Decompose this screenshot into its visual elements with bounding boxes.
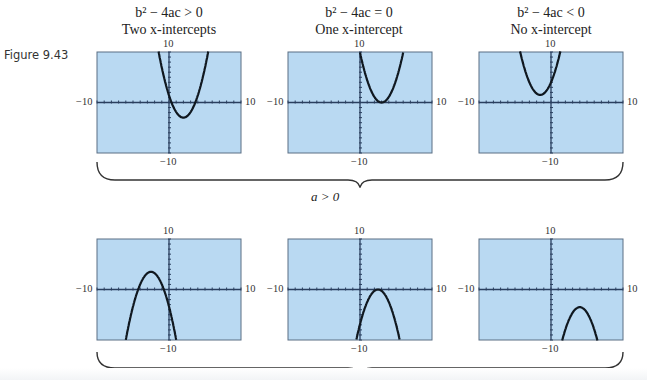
- condition-text: b² − 4ac = 0: [259, 4, 459, 21]
- graph-top-2: 10−10−1010: [288, 52, 432, 153]
- caption-col-3: b² − 4ac < 0 No x-intercept: [451, 4, 647, 38]
- description-text: Two x-intercepts: [69, 21, 269, 38]
- ymax-label: 10: [545, 225, 556, 236]
- caption-col-2: b² − 4ac = 0 One x-intercept: [259, 4, 459, 38]
- condition-text: b² − 4ac > 0: [69, 4, 269, 21]
- xmax-label: 10: [436, 96, 447, 107]
- ymax-label: 10: [354, 225, 365, 236]
- ymax-label: 10: [163, 38, 174, 49]
- ymax-label: 10: [545, 38, 556, 49]
- xmax-label: 10: [627, 283, 638, 294]
- graph-bottom-1: 10−10−1010: [97, 239, 241, 340]
- description-text: No x-intercept: [451, 21, 647, 38]
- graph-bottom-2: 10−10−1010: [288, 239, 432, 340]
- graph-top-1: 10−10−1010: [97, 52, 241, 153]
- graph-screen: [288, 239, 432, 340]
- xmin-label: −10: [267, 96, 283, 107]
- ymax-label: 10: [354, 38, 365, 49]
- graph-screen: [479, 239, 623, 340]
- figure-label: Figure 9.43: [4, 48, 68, 62]
- page-bleed: [0, 368, 647, 380]
- graph-screen: [97, 52, 241, 153]
- graph-bottom-3: 10−10−1010: [479, 239, 623, 340]
- xmax-label: 10: [245, 96, 256, 107]
- graph-screen: [97, 239, 241, 340]
- xmax-label: 10: [436, 283, 447, 294]
- xmin-label: −10: [76, 96, 92, 107]
- xmin-label: −10: [458, 96, 474, 107]
- xmax-label: 10: [627, 96, 638, 107]
- upper-condition-label: a > 0: [311, 189, 339, 205]
- graph-top-3: 10−10−1010: [479, 52, 623, 153]
- upper-brace: [95, 160, 625, 188]
- condition-text: b² − 4ac < 0: [451, 4, 647, 21]
- xmin-label: −10: [458, 283, 474, 294]
- ymax-label: 10: [163, 225, 174, 236]
- graph-screen: [288, 52, 432, 153]
- xmin-label: −10: [76, 283, 92, 294]
- caption-col-1: b² − 4ac > 0 Two x-intercepts: [69, 4, 269, 38]
- graph-screen: [479, 52, 623, 153]
- xmax-label: 10: [245, 283, 256, 294]
- description-text: One x-intercept: [259, 21, 459, 38]
- xmin-label: −10: [267, 283, 283, 294]
